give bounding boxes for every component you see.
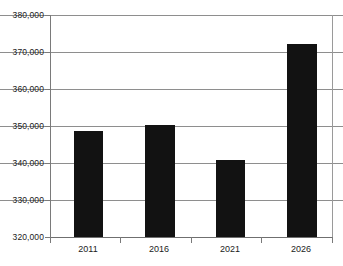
y-axis-label-370000: 370,000 — [0, 48, 44, 57]
y-axis-label-320000: 320,000 — [0, 233, 44, 242]
bar-2016 — [145, 125, 175, 237]
y-tick-mark — [45, 126, 51, 127]
x-tick-mark — [191, 237, 192, 243]
x-tick-mark — [50, 237, 51, 243]
y-tick-mark — [45, 163, 51, 164]
y-axis-label-360000: 360,000 — [0, 85, 44, 94]
y-axis-label-330000: 330,000 — [0, 196, 44, 205]
plot-right-edge — [332, 15, 333, 237]
y-axis-label-340000: 340,000 — [0, 159, 44, 168]
x-axis-label-2026: 2026 — [271, 245, 331, 254]
y-axis-label-380000: 380,000 — [0, 11, 44, 20]
bar-2021 — [216, 160, 245, 237]
y-tick-mark — [45, 89, 51, 90]
y-tick-mark — [45, 52, 51, 53]
gridline-380000 — [0, 15, 343, 16]
x-axis-label-2021: 2021 — [200, 245, 260, 254]
x-tick-mark — [120, 237, 121, 243]
bar-2026 — [287, 44, 317, 237]
x-tick-mark — [332, 237, 333, 243]
bar-chart: 380,000 370,000 360,000 350,000 340,000 … — [0, 0, 343, 266]
bar-2011 — [74, 131, 103, 237]
x-axis-label-2011: 2011 — [58, 245, 118, 254]
y-tick-mark — [45, 15, 51, 16]
x-axis-label-2016: 2016 — [129, 245, 189, 254]
x-tick-mark — [261, 237, 262, 243]
y-axis-label-350000: 350,000 — [0, 122, 44, 131]
y-tick-mark — [45, 200, 51, 201]
